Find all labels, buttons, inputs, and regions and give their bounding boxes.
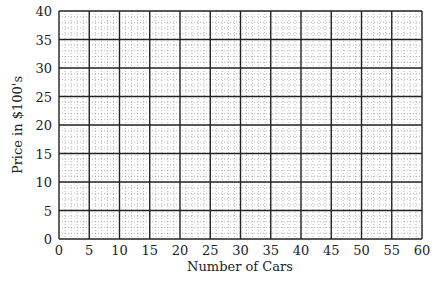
x-tick-label: 40: [293, 243, 310, 258]
x-tick-label: 45: [323, 243, 340, 258]
x-tick-label: 20: [172, 243, 189, 258]
x-tick-label: 15: [141, 243, 158, 258]
x-tick-label: 30: [232, 243, 249, 258]
x-tick-label: 50: [353, 243, 370, 258]
y-axis-label: Price in $100's: [10, 76, 25, 174]
y-tick-label: 15: [35, 147, 52, 162]
y-tick-label: 20: [35, 118, 52, 133]
y-tick-label: 40: [35, 4, 52, 19]
x-tick-label: 10: [111, 243, 128, 258]
x-tick-label: 35: [262, 243, 279, 258]
y-tick-label: 30: [35, 61, 52, 76]
x-axis-label: Number of Cars: [187, 259, 293, 274]
x-tick-label: 25: [202, 243, 219, 258]
y-tick-label: 5: [44, 204, 52, 219]
x-tick-label: 55: [383, 243, 400, 258]
chart: 051015202530354045505560 051015202530354…: [0, 0, 441, 283]
y-axis-ticks: 0510152025303540: [35, 4, 52, 247]
y-tick-label: 0: [44, 232, 52, 247]
x-axis-ticks: 051015202530354045505560: [55, 243, 430, 258]
y-tick-label: 10: [35, 175, 52, 190]
x-tick-label: 0: [55, 243, 63, 258]
x-tick-label: 60: [414, 243, 431, 258]
y-tick-label: 25: [35, 90, 52, 105]
x-tick-label: 5: [85, 243, 93, 258]
y-tick-label: 35: [35, 33, 52, 48]
